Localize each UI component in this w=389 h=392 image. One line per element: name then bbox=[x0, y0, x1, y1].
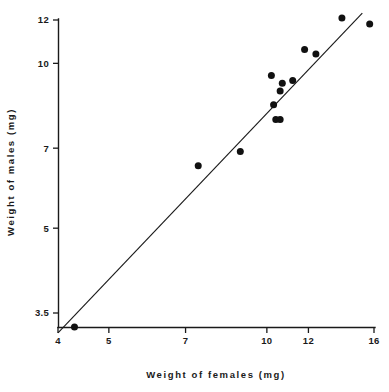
regression-line bbox=[58, 13, 362, 333]
x-axis-title: Weight of females (mg) bbox=[146, 369, 286, 380]
data-point bbox=[71, 323, 78, 330]
data-point bbox=[277, 116, 284, 123]
x-tick-label: 12 bbox=[303, 335, 314, 346]
data-point bbox=[366, 20, 373, 27]
data-points-group bbox=[71, 15, 373, 331]
x-tick-label: 5 bbox=[106, 335, 112, 346]
data-point bbox=[338, 15, 345, 22]
x-axis: 457101216 bbox=[55, 327, 379, 346]
y-tick-label: 10 bbox=[38, 58, 49, 69]
y-axis-tick-labels: 3.5571012 bbox=[35, 14, 50, 318]
x-tick-label: 16 bbox=[368, 335, 379, 346]
y-axis: 3.5571012 bbox=[35, 14, 59, 327]
y-tick-label: 5 bbox=[43, 223, 49, 234]
y-axis-title: Weight of males (mg) bbox=[5, 108, 16, 236]
scatter-plot-figure: 3.5571012 457101216 Weight of females (m… bbox=[0, 0, 389, 392]
data-point bbox=[289, 77, 296, 84]
y-tick-label: 7 bbox=[43, 143, 49, 154]
x-tick-label: 10 bbox=[261, 335, 272, 346]
data-point bbox=[268, 72, 275, 79]
x-axis-tick-labels: 457101216 bbox=[55, 335, 379, 346]
data-point bbox=[270, 101, 277, 108]
data-point bbox=[237, 148, 244, 155]
data-point bbox=[301, 46, 308, 53]
chart-svg: 3.5571012 457101216 Weight of females (m… bbox=[0, 0, 389, 392]
data-point bbox=[195, 162, 202, 169]
x-tick-label: 4 bbox=[55, 335, 61, 346]
data-point bbox=[312, 51, 319, 58]
y-tick-label: 12 bbox=[38, 14, 49, 25]
data-point bbox=[277, 88, 284, 95]
data-point bbox=[279, 80, 286, 87]
y-tick-label: 3.5 bbox=[35, 307, 50, 318]
x-tick-label: 7 bbox=[183, 335, 189, 346]
